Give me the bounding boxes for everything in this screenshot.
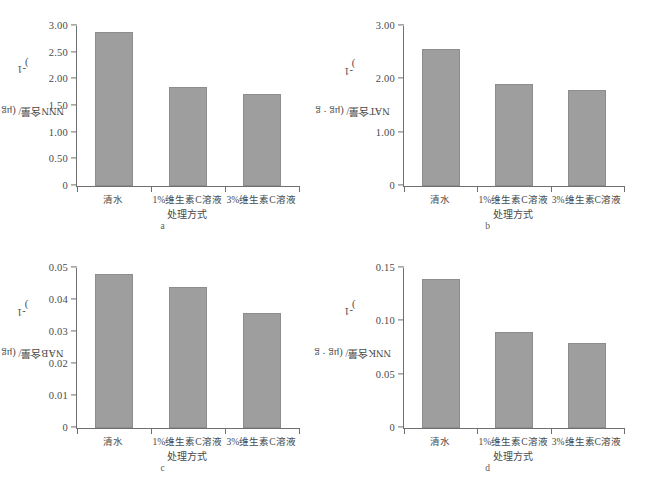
- x-category-label-c-1: 1%维生素C溶液: [150, 434, 224, 448]
- y-tick-label-b-2: 2.00: [376, 73, 395, 84]
- plot-area-c: 00.010.020.030.040.05: [76, 268, 299, 429]
- x-category-label-b-1: 1%维生素C溶液: [476, 192, 549, 206]
- plot-area-d: 00.050.100.15: [403, 268, 624, 429]
- x-category-label-d-1: 1%维生素C溶液: [476, 434, 549, 448]
- bar-a-0: [95, 32, 133, 186]
- x-category-label-d-2: 3%维生素C溶液: [550, 434, 623, 448]
- panel-b: NAT含量/ (μg · g-1) 01.002.003.00 清水1%维生素C…: [325, 0, 650, 242]
- plot-area-a: 00.501.001.502.002.503.00: [76, 26, 299, 187]
- figure-four-panel-bar-charts: NNN含量/ (μg · g-1) 00.501.001.502.002.503…: [0, 0, 650, 484]
- bar-cell-d-0: [404, 268, 477, 428]
- y-tick-label-d-2: 0.10: [376, 315, 395, 326]
- bar-cell-a-2: [225, 26, 299, 186]
- panel-d: NNK含量/ (μg · g-1) 00.050.100.15 清水1%维生素C…: [325, 242, 650, 484]
- x-axis-labels-d: 清水1%维生素C溶液3%维生素C溶液: [403, 434, 623, 448]
- y-tick-label-d-3: 0.15: [376, 262, 395, 273]
- bars-b: [404, 26, 624, 186]
- bar-a-1: [169, 87, 207, 186]
- y-tick-label-d-1: 0.05: [376, 369, 395, 380]
- bar-cell-d-2: [551, 268, 624, 428]
- y-tick-label-c-0: 0: [63, 422, 68, 433]
- y-tick-label-a-6: 3.00: [49, 20, 68, 31]
- x-category-label-a-2: 3%维生素C溶液: [224, 192, 298, 206]
- x-category-label-c-2: 3%维生素C溶液: [224, 434, 298, 448]
- bar-b-2: [568, 90, 606, 186]
- bar-b-1: [495, 84, 533, 186]
- plot-area-b: 01.002.003.00: [403, 26, 624, 187]
- y-tick-label-c-1: 0.01: [49, 390, 68, 401]
- bar-c-0: [95, 274, 133, 428]
- panel-letter-d: d: [325, 463, 650, 473]
- bars-d: [404, 268, 624, 428]
- bar-cell-a-1: [151, 26, 225, 186]
- bar-d-2: [568, 343, 606, 428]
- x-category-label-a-1: 1%维生素C溶液: [150, 192, 224, 206]
- y-tick-label-c-3: 0.03: [49, 326, 68, 337]
- x-tick-b-3: [624, 186, 625, 192]
- bar-cell-b-1: [477, 26, 550, 186]
- y-tick-label-a-2: 1.00: [49, 127, 68, 138]
- bars-c: [77, 268, 299, 428]
- y-tick-label-a-4: 2.00: [49, 73, 68, 84]
- bar-c-1: [169, 287, 207, 428]
- y-tick-label-b-0: 0: [390, 180, 395, 191]
- y-axis-title-c: NAB含量/ (μg · g-1): [16, 268, 32, 428]
- bar-a-2: [243, 94, 281, 186]
- x-axis-labels-c: 清水1%维生素C溶液3%维生素C溶液: [76, 434, 298, 448]
- panel-c: NAB含量/ (μg · g-1) 00.010.020.030.040.05 …: [0, 242, 325, 484]
- y-tick-label-a-3: 1.50: [49, 100, 68, 111]
- x-axis-title-d: 处理方式: [403, 448, 623, 463]
- y-tick-label-a-5: 2.50: [49, 47, 68, 58]
- y-tick-label-d-0: 0: [390, 422, 395, 433]
- bar-b-0: [422, 49, 460, 186]
- x-axis-labels-b: 清水1%维生素C溶液3%维生素C溶液: [403, 192, 623, 206]
- bar-d-1: [495, 332, 533, 428]
- panel-a: NNN含量/ (μg · g-1) 00.501.001.502.002.503…: [0, 0, 325, 242]
- bar-cell-b-0: [404, 26, 477, 186]
- y-tick-label-b-1: 1.00: [376, 127, 395, 138]
- panel-letter-c: c: [0, 463, 325, 473]
- y-tick-label-a-1: 0.50: [49, 153, 68, 164]
- x-axis-title-a: 处理方式: [76, 206, 298, 221]
- y-tick-label-b-3: 3.00: [376, 20, 395, 31]
- y-tick-label-c-2: 0.02: [49, 358, 68, 369]
- y-tick-label-a-0: 0: [63, 180, 68, 191]
- bar-c-2: [243, 313, 281, 428]
- bar-cell-c-2: [225, 268, 299, 428]
- x-category-label-d-0: 清水: [403, 434, 476, 448]
- bar-cell-a-0: [77, 26, 151, 186]
- y-axis-title-d: NNK含量/ (μg · g-1): [343, 268, 359, 428]
- bar-cell-b-2: [551, 26, 624, 186]
- x-category-label-b-0: 清水: [403, 192, 476, 206]
- bar-cell-d-1: [477, 268, 550, 428]
- y-axis-title-b: NAT含量/ (μg · g-1): [343, 26, 359, 186]
- x-category-label-c-0: 清水: [76, 434, 150, 448]
- y-tick-label-c-4: 0.04: [49, 294, 68, 305]
- bar-d-0: [422, 279, 460, 428]
- panel-letter-a: a: [0, 221, 325, 231]
- bars-a: [77, 26, 299, 186]
- x-axis-title-c: 处理方式: [76, 448, 298, 463]
- x-tick-d-3: [624, 428, 625, 434]
- panel-letter-b: b: [325, 221, 650, 231]
- x-tick-c-3: [299, 428, 300, 434]
- x-category-label-b-2: 3%维生素C溶液: [550, 192, 623, 206]
- x-axis-title-b: 处理方式: [403, 206, 623, 221]
- y-tick-label-c-5: 0.05: [49, 262, 68, 273]
- x-category-label-a-0: 清水: [76, 192, 150, 206]
- bar-cell-c-1: [151, 268, 225, 428]
- bar-cell-c-0: [77, 268, 151, 428]
- y-axis-title-a: NNN含量/ (μg · g-1): [16, 26, 32, 186]
- x-axis-labels-a: 清水1%维生素C溶液3%维生素C溶液: [76, 192, 298, 206]
- x-tick-a-3: [299, 186, 300, 192]
